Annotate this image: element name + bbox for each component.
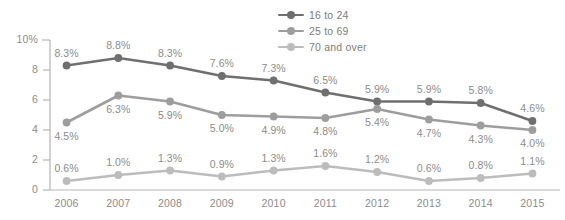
data-point-label: 1.2% (351, 153, 403, 165)
data-point-label: 4.8% (299, 125, 351, 137)
data-point-label: 4.3% (455, 133, 507, 145)
data-point-label: 5.9% (351, 83, 403, 95)
data-point-label: 8.8% (92, 39, 144, 51)
y-axis-tick-label: 10% (0, 33, 38, 45)
legend-item-25-to-69[interactable]: 25 to 69 (278, 24, 367, 37)
legend-marker-icon (278, 41, 304, 52)
data-point-label: 6.5% (299, 74, 351, 86)
y-axis-tick-label: 0 (0, 183, 38, 195)
data-point-label: 4.9% (248, 124, 300, 136)
y-axis-tick-label: 4 (0, 123, 38, 135)
data-point-label: 0.9% (196, 158, 248, 170)
data-point-label: 4.7% (403, 127, 455, 139)
legend-label: 25 to 69 (309, 25, 349, 37)
data-point-label: 5.0% (196, 122, 248, 134)
legend-label: 16 to 24 (309, 9, 349, 21)
legend-marker-icon (278, 25, 304, 36)
data-point-label: 8.3% (144, 47, 196, 59)
data-point-label: 1.0% (92, 156, 144, 168)
data-point-label: 7.3% (248, 62, 300, 74)
chart-legend: 16 to 24 25 to 69 70 and over (278, 8, 367, 53)
data-point-label: 5.4% (351, 116, 403, 128)
data-point-label: 6.3% (92, 103, 144, 115)
legend-label: 70 and over (309, 41, 367, 53)
y-axis-tick-label: 2 (0, 153, 38, 165)
data-point-label: 4.6% (506, 102, 558, 114)
data-point-label: 5.8% (455, 84, 507, 96)
data-point-label: 5.9% (144, 109, 196, 121)
data-point-label: 8.3% (41, 47, 93, 59)
data-point-label: 1.3% (248, 152, 300, 164)
legend-item-16-to-24[interactable]: 16 to 24 (278, 8, 367, 21)
data-point-label: 5.9% (403, 83, 455, 95)
x-axis-tick-label: 2015 (502, 197, 562, 209)
data-point-label: 0.8% (455, 159, 507, 171)
data-point-label: 0.6% (41, 162, 93, 174)
data-point-label: 7.6% (196, 57, 248, 69)
data-point-label: 1.1% (506, 155, 558, 167)
data-point-label: 1.3% (144, 152, 196, 164)
data-point-label: 4.5% (41, 130, 93, 142)
y-axis-tick-label: 6 (0, 93, 38, 105)
data-point-label: 0.6% (403, 162, 455, 174)
y-axis-tick-label: 8 (0, 63, 38, 75)
legend-item-70-and-over[interactable]: 70 and over (278, 40, 367, 53)
data-point-label: 4.0% (506, 137, 558, 149)
data-point-label: 1.6% (299, 147, 351, 159)
legend-marker-icon (278, 9, 304, 20)
line-chart: 0246810% 2006200720082009201020112012201… (0, 0, 565, 220)
